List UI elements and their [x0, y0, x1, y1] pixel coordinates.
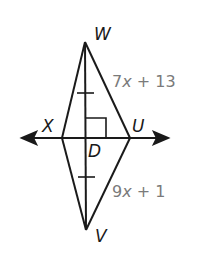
edge-label-wu: 7x + 13 [112, 72, 176, 91]
vertex-label-v: V [95, 226, 108, 246]
right-angle-marker [86, 118, 106, 138]
edge-label-uv-rest: + 1 [132, 182, 166, 201]
vertex-label-x: X [41, 116, 54, 136]
edge-label-uv-coef: 9 [112, 182, 122, 201]
vertex-label-u: U [132, 116, 145, 136]
arrow-left-icon [22, 132, 36, 144]
edge-label-uv-var: x [121, 182, 132, 201]
geometry-diagram: W X U D V 7x + 13 9x + 1 [0, 0, 201, 262]
kite-outline [62, 42, 130, 230]
segment-xv [62, 138, 86, 230]
edge-label-wu-var: x [121, 72, 132, 91]
arrow-right-icon [154, 132, 168, 144]
edge-label-uv: 9x + 1 [112, 182, 165, 201]
vertex-label-w: W [94, 24, 112, 44]
edge-label-wu-rest: + 13 [132, 72, 176, 91]
segment-wv [85, 42, 86, 230]
segment-wx [62, 42, 85, 138]
vertex-label-d: D [88, 141, 101, 161]
edge-label-wu-coef: 7 [112, 72, 122, 91]
